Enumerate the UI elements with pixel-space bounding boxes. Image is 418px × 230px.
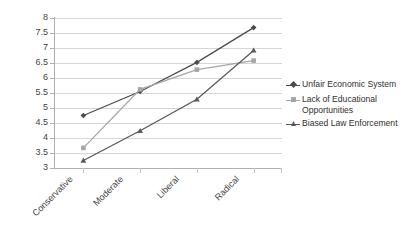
y-axis-label: 7.5	[22, 28, 48, 37]
gridline	[55, 78, 282, 79]
x-axis-tick	[281, 168, 282, 173]
gridline	[55, 33, 282, 34]
legend-item-unfair-economic-system[interactable]: Unfair Economic System	[286, 79, 418, 91]
y-axis-label: 4	[22, 133, 48, 142]
gridline	[55, 138, 282, 139]
legend-item-biased-law-enforcement[interactable]: Biased Law Enforcement	[286, 118, 418, 130]
legend-marker-icon	[286, 80, 300, 91]
plot-area	[55, 18, 282, 168]
y-axis-label: 3.5	[22, 148, 48, 157]
y-axis-label: 6	[22, 73, 48, 82]
legend-marker-icon	[286, 95, 300, 106]
y-axis-tick	[50, 123, 54, 124]
y-axis-label: 5	[22, 103, 48, 112]
legend: Unfair Economic System Lack of Education…	[286, 79, 418, 133]
y-axis-tick	[50, 138, 54, 139]
legend-item-lack-of-educational-opportunities[interactable]: Lack of Educational Opportunities	[286, 94, 418, 115]
x-axis-line	[54, 168, 282, 169]
x-axis-tick	[254, 168, 255, 173]
y-axis-label: 4.5	[22, 118, 48, 127]
legend-label: Lack of Educational Opportunities	[302, 94, 377, 115]
gridline	[55, 123, 282, 124]
legend-marker-icon	[286, 119, 300, 130]
y-axis-tick	[50, 108, 54, 109]
x-axis-tick	[83, 168, 84, 173]
gridline	[55, 63, 282, 64]
legend-label: Unfair Economic System	[302, 79, 396, 90]
line-chart: 8 7.5 7 6.5 6 5.5 5 4.5 4 3.5 3 Conserva…	[0, 0, 418, 230]
y-axis-tick	[50, 48, 54, 49]
y-axis-line	[54, 17, 55, 169]
y-axis-tick	[50, 168, 54, 169]
legend-label: Biased Law Enforcement	[302, 118, 398, 129]
x-axis-tick	[140, 168, 141, 173]
y-axis-tick	[50, 153, 54, 154]
y-axis-tick	[50, 63, 54, 64]
gridline	[55, 153, 282, 154]
y-axis-tick	[50, 18, 54, 19]
x-axis-tick	[197, 168, 198, 173]
y-axis-label: 5.5	[22, 88, 48, 97]
gridline	[55, 18, 282, 19]
x-axis-label-liberal: Liberal	[155, 174, 181, 200]
y-axis-tick	[50, 93, 54, 94]
y-axis-label: 6.5	[22, 58, 48, 67]
x-axis-label-moderate: Moderate	[91, 174, 125, 208]
gridline	[55, 93, 282, 94]
x-axis-label-conservative: Conservative	[30, 174, 74, 218]
y-axis-label: 8	[22, 13, 48, 22]
y-axis-label: 3	[22, 163, 48, 172]
x-axis-label-radical: Radical	[213, 174, 241, 202]
y-axis-tick	[50, 78, 54, 79]
y-axis-label: 7	[22, 43, 48, 52]
gridline	[55, 48, 282, 49]
y-axis-tick	[50, 33, 54, 34]
gridline	[55, 108, 282, 109]
